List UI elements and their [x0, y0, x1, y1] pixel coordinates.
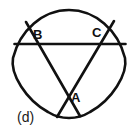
panel-label: (d) — [17, 110, 34, 124]
vertex-label-c: C — [92, 26, 101, 39]
geometry-figure-panel: B C A (d) — [0, 0, 138, 130]
vertex-label-a: A — [71, 91, 80, 104]
chord-right-to-bottom-left — [57, 21, 114, 117]
vertex-label-b: B — [33, 28, 42, 41]
